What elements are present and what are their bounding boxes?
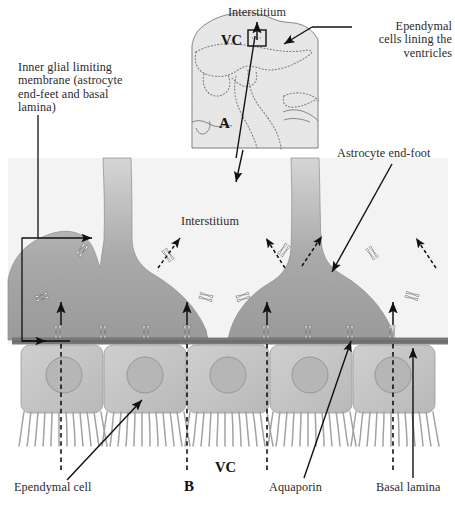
panel-b-vc-label: VC — [215, 459, 236, 476]
basal-lamina-band — [12, 338, 448, 345]
cilium-group — [351, 412, 439, 446]
panel-a-interstitium-label: Interstitium — [196, 6, 318, 19]
nucleus — [46, 357, 82, 393]
nucleus — [210, 357, 246, 393]
panel-a-vc-label: VC — [221, 32, 242, 49]
ependymal-cell — [353, 345, 435, 413]
label-basal-lamina: Basal lamina — [376, 481, 441, 494]
label-ependymal-cells-lining-ventricles: Ependymal cells lining the ventricles — [300, 20, 452, 60]
ependymal-cell — [187, 345, 269, 413]
panel-b-detail — [8, 158, 448, 344]
panel-b-letter: B — [184, 478, 194, 495]
label-ependymal-cell: Ependymal cell — [14, 481, 92, 494]
cilia-field — [19, 412, 439, 446]
ependymal-cell — [21, 345, 103, 413]
nucleus — [127, 357, 163, 393]
panel-a-letter: A — [219, 115, 230, 132]
ependymal-cell — [270, 345, 352, 413]
label-astrocyte-end-foot: Astrocyte end-foot — [337, 147, 455, 160]
label-aquaporin: Aquaporin — [269, 481, 322, 494]
cilium-group — [268, 412, 356, 446]
ependymal-cell-layer — [19, 345, 439, 446]
cilium-group — [185, 412, 273, 446]
figure-root: Interstitium VC A Ependymal cells lining… — [0, 0, 455, 514]
ependymal-cell — [104, 345, 186, 413]
label-inner-glial-limiting-membrane: Inner glial limiting membrane (astrocyte… — [18, 61, 158, 115]
cilium-group — [19, 412, 107, 446]
nucleus — [292, 357, 328, 393]
panel-b-interstitium-label: Interstitium — [181, 215, 239, 228]
